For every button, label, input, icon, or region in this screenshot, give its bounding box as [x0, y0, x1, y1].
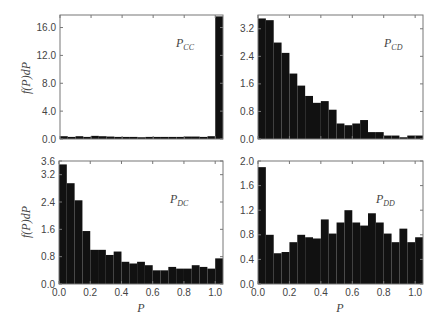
y-tick-label: 0.0	[240, 134, 254, 145]
y-tick-label: 0.8	[240, 229, 254, 240]
histogram-bar	[153, 270, 161, 284]
histogram-bar	[129, 264, 137, 285]
histogram-bar	[192, 265, 200, 284]
histogram-bar	[282, 252, 290, 284]
y-tick-label: 1.6	[240, 78, 254, 89]
x-tick-label: 1.0	[408, 287, 422, 298]
histogram-bar	[337, 223, 345, 285]
x-tick-label: 0.2	[83, 287, 97, 298]
histogram-bar	[392, 242, 400, 284]
histogram-bar	[321, 101, 329, 139]
histogram-bar	[121, 262, 129, 284]
panel-label: PDC	[169, 192, 189, 208]
panel-pcd: 0.00.81.62.43.2PCD	[240, 15, 423, 145]
plot-frame	[60, 15, 223, 139]
histogram-bar	[289, 242, 297, 284]
histogram-bar	[114, 252, 122, 284]
y-axis-label-top: f(P)dP	[19, 61, 33, 94]
x-tick-label: 0.6	[345, 287, 359, 298]
histogram-bar	[168, 267, 176, 284]
x-tick-label: 0.0	[251, 287, 265, 298]
histogram-bar	[274, 43, 282, 139]
x-tick-label: 0.4	[115, 287, 129, 298]
panel-pdd: 0.00.40.81.21.62.00.00.20.40.60.81.0PDD	[240, 156, 423, 299]
histogram-bar	[305, 96, 313, 139]
panel-label: PDD	[375, 192, 395, 208]
panel-pcc: 0.04.08.012.016.0PCC	[37, 15, 223, 145]
histogram-bar	[215, 16, 223, 139]
histogram-bar	[352, 124, 360, 140]
histogram-bar	[321, 219, 329, 284]
histogram-bar	[266, 235, 274, 284]
y-tick-label: 0.8	[41, 251, 55, 262]
y-tick-label: 1.6	[41, 224, 55, 235]
histogram-bar	[258, 167, 266, 284]
panel-pdc: 0.00.81.62.43.23.60.00.20.40.60.81.0PDC	[41, 156, 223, 299]
histogram-bar	[305, 237, 313, 284]
histogram-bar	[184, 269, 192, 284]
histogram-bar	[376, 132, 384, 139]
y-axis-label-bottom: f(P)dP	[19, 205, 33, 238]
y-tick-label: 16.0	[37, 22, 57, 33]
histogram-bar	[176, 269, 184, 284]
histogram-bar	[399, 229, 407, 284]
y-tick-label: 2.4	[240, 51, 254, 62]
x-axis-label-right: P	[335, 301, 344, 315]
y-tick-label: 1.6	[240, 180, 254, 191]
y-tick-label: 2.4	[41, 197, 55, 208]
histogram-bar	[207, 269, 215, 284]
y-tick-label: 4.0	[42, 106, 56, 117]
histogram-figure: 0.04.08.012.016.0PCC 0.00.81.62.43.2PCD …	[0, 0, 441, 325]
histogram-bar	[352, 223, 360, 285]
histogram-bar	[344, 125, 352, 139]
x-tick-label: 0.6	[146, 287, 160, 298]
y-tick-label: 3.2	[41, 169, 55, 180]
histogram-bar	[360, 120, 368, 139]
x-tick-label: 0.2	[282, 287, 296, 298]
histogram-bar	[289, 74, 297, 139]
histogram-bar	[368, 132, 376, 139]
histogram-bar	[360, 226, 368, 284]
y-tick-label: 12.0	[37, 50, 57, 61]
x-tick-label: 0.8	[377, 287, 391, 298]
y-tick-label: 0.8	[240, 106, 254, 117]
histogram-bar	[75, 200, 83, 284]
histogram-bar	[274, 253, 282, 284]
x-tick-label: 1.0	[208, 287, 222, 298]
histogram-bar	[145, 265, 153, 284]
histogram-bar	[266, 20, 274, 139]
histogram-bar	[282, 53, 290, 139]
histogram-bar	[313, 103, 321, 139]
histogram-bar	[90, 250, 98, 284]
histogram-bar	[313, 238, 321, 284]
histogram-bar	[407, 136, 415, 139]
histogram-bar	[415, 136, 423, 139]
histogram-bar	[161, 270, 169, 284]
histogram-bar	[376, 223, 384, 285]
histogram-bar	[297, 235, 305, 284]
histogram-bar	[415, 237, 423, 284]
histogram-bar	[67, 183, 75, 284]
histogram-bar	[200, 267, 208, 284]
histogram-bar	[407, 242, 415, 284]
y-tick-label: 3.2	[240, 23, 254, 34]
histogram-bar	[344, 210, 352, 284]
y-tick-label: 2.0	[240, 156, 254, 167]
histogram-bar	[392, 136, 400, 139]
x-tick-label: 0.8	[177, 287, 191, 298]
histogram-bar	[215, 258, 223, 284]
y-tick-label: 8.0	[42, 78, 56, 89]
panel-label: PCC	[175, 36, 195, 52]
y-tick-label: 0.4	[240, 254, 254, 265]
histogram-bar	[258, 18, 266, 139]
x-axis-label-left: P	[136, 301, 145, 315]
y-tick-label: 1.2	[240, 205, 254, 216]
histogram-bar	[384, 136, 392, 139]
x-tick-label: 0.4	[314, 287, 328, 298]
histogram-bar	[337, 124, 345, 140]
histogram-bar	[59, 164, 67, 284]
histogram-bar	[98, 250, 106, 284]
histogram-bar	[297, 86, 305, 139]
panel-label: PCD	[383, 36, 403, 52]
y-tick-label: 0.0	[42, 134, 56, 145]
